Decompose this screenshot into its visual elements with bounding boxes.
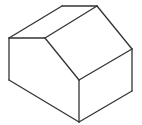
edge-DF (45, 38, 79, 80)
house-prism-diagram (0, 0, 142, 125)
edge-BE (97, 6, 132, 49)
edge-FE (79, 49, 132, 80)
edge-CA (9, 6, 62, 38)
house-prism-drawing (0, 0, 142, 125)
edge-GH (9, 80, 79, 122)
edge-IH (79, 91, 132, 122)
